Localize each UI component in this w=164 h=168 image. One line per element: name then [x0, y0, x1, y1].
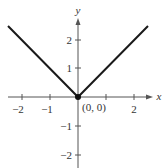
plot-area: −2 −1 2 x 2 1 −1 −2 y (0, 0)	[0, 0, 164, 168]
y-axis: 2 1 −1 −2 y	[60, 4, 81, 168]
y-axis-arrow-icon	[76, 18, 81, 25]
y-tick-label: 1	[67, 62, 73, 74]
x-tick-label: 2	[131, 103, 137, 115]
x-axis-arrow-icon	[146, 95, 153, 100]
y-tick-label: 2	[67, 34, 73, 46]
x-axis-label: x	[156, 90, 162, 102]
vertex-label: (0, 0)	[82, 101, 106, 114]
x-tick-label: −1	[41, 103, 53, 115]
vertex-point	[75, 94, 81, 100]
x-tick-label: −2	[12, 103, 24, 115]
y-tick-label: −1	[60, 120, 72, 132]
graph-absolute-value: −2 −1 2 x 2 1 −1 −2 y (0, 0)	[0, 0, 164, 168]
y-axis-label: y	[75, 4, 81, 16]
y-tick-label: −2	[60, 149, 72, 161]
